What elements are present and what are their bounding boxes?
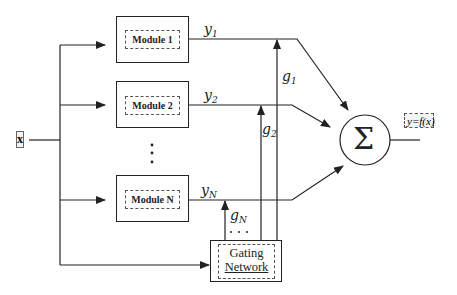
gating-line-2: Network <box>219 260 274 274</box>
gating-line-1: Gating <box>219 246 274 260</box>
y1-label: y1 <box>204 22 218 39</box>
gating-network-box: Gating Network <box>210 240 282 282</box>
g2-label: g2 <box>262 122 277 139</box>
module-n-box: Module N <box>116 175 189 222</box>
input-x-label: x <box>17 132 23 147</box>
y2-path <box>189 105 330 127</box>
yn-label: yN <box>201 183 217 200</box>
output-label: y=f(x) <box>404 113 434 128</box>
module-2-label: Module 2 <box>125 96 180 115</box>
g1-label: g1 <box>282 69 297 86</box>
horizontal-ellipsis <box>230 231 248 233</box>
gn-label: gN <box>230 208 247 225</box>
gating-network-label: Gating Network <box>218 244 275 279</box>
module-2-box: Module 2 <box>116 81 189 128</box>
module-n-label: Module N <box>125 190 180 209</box>
input-x: x <box>16 131 24 148</box>
module-1-label: Module 1 <box>125 30 180 49</box>
y2-label: y2 <box>204 88 218 105</box>
vertical-ellipsis <box>151 144 154 164</box>
sigma-symbol: Σ <box>353 121 374 156</box>
module-1-box: Module 1 <box>116 16 189 63</box>
